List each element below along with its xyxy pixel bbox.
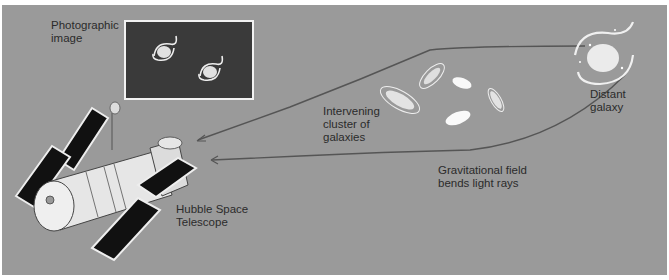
galaxy-cluster-icon bbox=[376, 60, 506, 128]
label-line: Hubble Space bbox=[176, 203, 248, 216]
label-line: Gravitational field bbox=[438, 164, 527, 177]
label-intervening-cluster: Intervening cluster of galaxies bbox=[323, 105, 380, 144]
lower-light-ray bbox=[212, 75, 625, 160]
label-line: cluster of bbox=[323, 118, 380, 131]
label-line: Intervening bbox=[323, 105, 380, 118]
hubble-telescope-icon bbox=[16, 102, 196, 260]
distant-galaxy-icon bbox=[575, 22, 633, 84]
label-line: Distant bbox=[590, 88, 626, 101]
label-line: bends light rays bbox=[438, 177, 527, 190]
label-line: Telescope bbox=[176, 216, 248, 229]
label-hubble-telescope: Hubble Space Telescope bbox=[176, 203, 248, 229]
label-line: image bbox=[51, 32, 119, 45]
label-line: galaxies bbox=[323, 131, 380, 144]
label-line: Photographic bbox=[51, 19, 119, 32]
label-line: galaxy bbox=[590, 101, 626, 114]
label-photographic-image: Photographic image bbox=[51, 19, 119, 45]
label-gravitational-field: Gravitational field bends light rays bbox=[438, 164, 527, 190]
label-distant-galaxy: Distant galaxy bbox=[590, 88, 626, 114]
